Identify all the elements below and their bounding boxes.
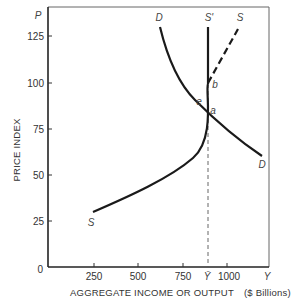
y-tick-label-25: 25 <box>33 216 45 227</box>
y-tick-label-100: 100 <box>27 78 44 89</box>
label-s-prime: S' <box>205 12 215 23</box>
x-axis-symbol: Y <box>264 271 272 282</box>
y-tick-label-75: 75 <box>33 124 45 135</box>
x-axis-title: AGGREGATE INCOME OR OUTPUT <box>70 287 234 298</box>
origin-label: 0 <box>37 264 43 275</box>
point-a-label: a <box>210 105 216 116</box>
x-tick-label-750: 750 <box>175 271 192 282</box>
x-tick-label-1000: 1000 <box>218 271 241 282</box>
label-d-bottom: D <box>258 159 265 170</box>
chart-svg: 125 100 75 50 25 0 250 500 750 Ȳ 1000 Y … <box>0 0 307 305</box>
point-e-label: e <box>196 96 202 107</box>
label-d-top: D <box>155 12 162 23</box>
point-b-label: b <box>212 79 218 90</box>
demand-curve-d <box>160 27 262 156</box>
x-tick-label-ybar: Ȳ <box>204 271 212 282</box>
label-s-bottom: S <box>88 217 95 228</box>
y-axis-title: PRICE INDEX <box>11 118 22 181</box>
label-s-top: S <box>237 12 244 23</box>
y-axis-symbol: P <box>35 10 42 21</box>
y-tick-label-125: 125 <box>27 31 44 42</box>
x-tick-label-500: 500 <box>130 271 147 282</box>
x-tick-label-250: 250 <box>86 271 103 282</box>
x-axis-units: ($ Billions) <box>244 287 291 298</box>
supply-curve-s <box>93 84 208 212</box>
y-tick-label-50: 50 <box>33 170 45 181</box>
supply-curve-s-dashed <box>208 29 238 83</box>
